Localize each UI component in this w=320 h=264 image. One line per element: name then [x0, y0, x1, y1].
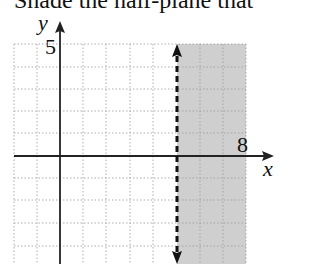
x-tick-label: 8: [237, 134, 248, 156]
shaded-region: [177, 44, 246, 264]
y-axis-label: y: [38, 12, 48, 34]
x-axis-label: x: [263, 158, 273, 180]
y-tick-label: 5: [45, 36, 56, 58]
